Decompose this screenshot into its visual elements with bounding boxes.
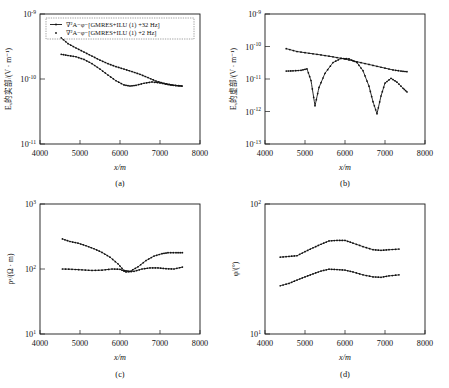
data-point-marker <box>368 64 370 66</box>
panel-d-series-group <box>279 240 399 287</box>
data-point-marker <box>315 99 317 101</box>
data-point-marker <box>147 77 149 79</box>
data-point-marker <box>328 55 330 57</box>
data-point-marker <box>102 60 104 62</box>
data-point-marker <box>88 269 90 271</box>
data-point-marker <box>179 252 181 254</box>
data-point-marker <box>333 269 335 271</box>
panel-b-xtick-3: 7000 <box>377 149 393 158</box>
data-point-marker <box>351 59 353 61</box>
data-point-marker <box>104 62 106 64</box>
data-point-marker <box>182 252 184 254</box>
legend-label-1: ∇²A−φ−[GMRES+ILU (1) +2 Hz] <box>66 29 156 37</box>
data-point-marker <box>339 240 341 242</box>
data-point-marker <box>168 268 170 270</box>
panel-c-series-group <box>62 238 184 273</box>
data-point-marker <box>155 80 157 82</box>
data-point-marker <box>308 52 310 54</box>
panel-c-x-ticks <box>40 330 200 334</box>
data-point-marker <box>72 46 74 48</box>
data-point-marker <box>336 240 338 242</box>
data-point-marker <box>112 259 114 261</box>
data-point-marker <box>177 85 179 87</box>
panel-a-xtick-3: 7000 <box>152 149 168 158</box>
data-point-marker <box>293 255 295 257</box>
data-point-marker <box>70 44 72 46</box>
panel-c-plot: 103 102 101 4000 5000 6000 7000 8000 x/m… <box>0 194 224 388</box>
data-point-marker <box>380 66 382 68</box>
data-point-marker <box>311 88 313 90</box>
data-point-marker <box>62 238 64 240</box>
data-point-marker <box>403 89 405 91</box>
data-point-marker <box>340 58 342 60</box>
data-point-marker <box>349 271 351 273</box>
data-point-marker <box>312 53 314 55</box>
data-point-marker <box>118 67 120 69</box>
panel-d-xtick-3: 7000 <box>377 339 393 348</box>
data-point-marker <box>96 58 98 60</box>
data-point-marker <box>67 240 69 242</box>
panel-b-x-ticks <box>265 140 425 144</box>
data-point-marker <box>325 269 327 271</box>
data-point-marker <box>309 76 311 78</box>
data-point-marker <box>98 250 100 252</box>
data-point-marker <box>99 59 101 61</box>
data-point-marker <box>172 252 174 254</box>
data-point-marker <box>279 256 281 258</box>
panel-c-y-axis-label: ρᵃ/(Ω · m) <box>6 253 15 284</box>
data-point-marker <box>167 252 169 254</box>
data-point-marker <box>365 275 367 277</box>
data-point-marker <box>332 62 334 64</box>
data-point-marker <box>152 267 154 269</box>
data-point-marker <box>72 241 74 243</box>
data-point-marker <box>71 268 73 270</box>
data-point-marker <box>352 242 354 244</box>
data-point-marker <box>372 276 374 278</box>
data-point-marker <box>365 247 367 249</box>
data-point-marker <box>70 55 72 57</box>
panel-c-x-axis-label: x/m <box>113 353 126 362</box>
data-point-marker <box>356 62 358 64</box>
panel-a-xtick-4: 8000 <box>192 149 208 158</box>
panel-a-letter: (a) <box>115 179 125 188</box>
data-point-marker <box>170 252 172 254</box>
data-point-marker <box>150 78 152 80</box>
data-point-marker <box>84 269 86 271</box>
data-point-marker <box>288 283 290 285</box>
data-point-marker <box>341 240 343 242</box>
data-point-marker <box>304 251 306 253</box>
data-point-marker <box>405 90 407 92</box>
data-point-marker <box>132 269 134 271</box>
data-point-marker <box>88 246 90 248</box>
panel-c-ytick-1: 102 <box>25 264 36 274</box>
data-point-marker <box>325 241 327 243</box>
data-point-marker <box>80 243 82 245</box>
data-point-marker <box>160 267 162 269</box>
data-point-marker <box>336 269 338 271</box>
data-point-marker <box>175 252 177 254</box>
data-point-marker <box>173 268 175 270</box>
panel-b-ytick-3: 10-12 <box>245 106 261 116</box>
data-point-marker <box>119 268 121 270</box>
panel-a-y-axis-label: Eₓ的实部/(V · m⁻¹) <box>3 48 13 110</box>
data-point-marker <box>133 271 135 273</box>
data-point-marker <box>406 91 408 93</box>
data-point-marker <box>101 269 103 271</box>
data-point-marker <box>380 95 382 97</box>
data-point-marker <box>112 78 114 80</box>
data-point-marker <box>75 47 77 49</box>
data-point-marker <box>377 249 379 251</box>
data-point-marker <box>94 270 96 272</box>
data-point-marker <box>91 63 93 65</box>
data-point-marker <box>116 268 118 270</box>
data-point-marker <box>397 70 399 72</box>
data-point-marker <box>404 71 406 73</box>
data-point-marker <box>352 271 354 273</box>
data-point-marker <box>104 253 106 255</box>
data-point-marker <box>376 113 378 115</box>
data-point-marker <box>328 240 330 242</box>
data-point-marker <box>377 107 379 109</box>
data-point-marker <box>285 256 287 258</box>
data-point-marker <box>134 267 136 269</box>
panel-a-xtick-1: 5000 <box>72 149 88 158</box>
